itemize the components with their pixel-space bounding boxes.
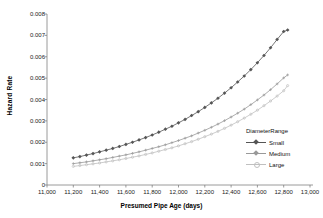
- data-point-marker: [98, 150, 102, 154]
- data-point-marker: [177, 121, 181, 125]
- data-point-marker: [124, 143, 128, 147]
- data-point-marker: [71, 156, 75, 160]
- data-point-marker: [144, 136, 148, 140]
- legend-entries: SmallMediumLarge: [246, 137, 320, 170]
- data-point-marker: [117, 145, 121, 149]
- x-axis-title: Presumed Pipe Age (days): [0, 202, 323, 209]
- legend-swatch-small: [246, 138, 266, 147]
- data-point-marker: [78, 155, 82, 159]
- data-point-marker: [157, 130, 161, 134]
- hazard-rate-chart: Hazard Rate 00.0010.0020.0030.0040.0050.…: [0, 0, 323, 218]
- data-point-marker: [91, 152, 95, 156]
- legend-item-small[interactable]: Small: [246, 137, 320, 148]
- legend-label: Small: [269, 140, 284, 146]
- data-point-marker: [286, 28, 290, 32]
- legend-swatch-large: [246, 160, 266, 169]
- data-point-marker: [183, 118, 187, 122]
- data-point-marker: [104, 148, 108, 152]
- legend-item-medium[interactable]: Medium: [246, 148, 320, 159]
- data-point-marker: [131, 140, 135, 144]
- legend-label: Large: [269, 162, 284, 168]
- data-point-marker: [85, 153, 89, 157]
- legend-swatch-medium: [246, 149, 266, 158]
- data-point-marker: [150, 133, 154, 137]
- data-point-marker: [190, 114, 194, 118]
- data-point-marker: [111, 147, 115, 151]
- legend-title: DiameterRange: [246, 128, 320, 134]
- data-point-marker: [137, 138, 141, 142]
- legend-label: Medium: [269, 151, 290, 157]
- legend: DiameterRange SmallMediumLarge: [246, 128, 320, 170]
- plot-area: [0, 0, 323, 218]
- legend-item-large[interactable]: Large: [246, 159, 320, 170]
- data-point-marker: [164, 127, 168, 131]
- data-point-marker: [170, 124, 174, 128]
